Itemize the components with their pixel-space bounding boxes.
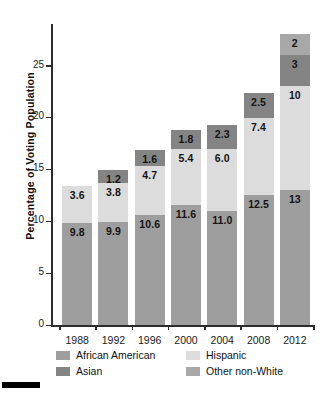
legend-swatch bbox=[56, 367, 70, 376]
legend-label: Asian bbox=[76, 366, 102, 377]
stacked-bar[interactable]: 9.83.6 bbox=[62, 186, 92, 325]
bar-segment[interactable]: 3.6 bbox=[62, 186, 92, 223]
bar-segment-label: 3.8 bbox=[98, 186, 128, 198]
bar-segment-label: 3 bbox=[280, 58, 310, 70]
stacked-bar[interactable]: 11.06.02.3 bbox=[207, 125, 237, 325]
bar-segment[interactable]: 11.0 bbox=[207, 211, 237, 325]
bar-segment[interactable]: 9.9 bbox=[98, 222, 128, 325]
legend-swatch bbox=[186, 367, 200, 376]
bar-segment-label: 2 bbox=[280, 37, 310, 49]
bar-segment-label: 3.6 bbox=[62, 189, 92, 201]
x-axis-line bbox=[51, 325, 313, 327]
bar-segment[interactable]: 6.0 bbox=[207, 149, 237, 211]
bar-segment-label: 10 bbox=[280, 89, 310, 101]
bar-segment[interactable]: 9.8 bbox=[62, 223, 92, 325]
bar-segment[interactable]: 3.8 bbox=[98, 183, 128, 222]
legend-item[interactable]: Hispanic bbox=[186, 350, 246, 361]
legend-label: Hispanic bbox=[206, 350, 246, 361]
bar-segment-label: 7.4 bbox=[244, 121, 274, 133]
y-tick-mark bbox=[46, 117, 51, 119]
bar-segment[interactable]: 10.6 bbox=[135, 215, 165, 325]
stacked-bar[interactable]: 10.64.71.6 bbox=[135, 150, 165, 325]
legend-label: African American bbox=[76, 350, 155, 361]
chart-legend: African AmericanHispanicAsianOther non-W… bbox=[56, 350, 306, 382]
y-axis-line bbox=[51, 24, 53, 327]
bar-segment-label: 10.6 bbox=[135, 218, 165, 230]
x-tick-mark bbox=[204, 325, 206, 330]
y-axis-title: Percentage of Voting Population bbox=[24, 41, 36, 271]
bar-segment-label: 2.3 bbox=[207, 128, 237, 140]
bar-segment-label: 5.4 bbox=[171, 152, 201, 164]
bar-segment[interactable]: 2.3 bbox=[207, 125, 237, 149]
bar-segment[interactable]: 13 bbox=[280, 190, 310, 325]
bar-segment-label: 13 bbox=[280, 193, 310, 205]
bar-segment-label: 1.2 bbox=[98, 173, 128, 185]
legend-item[interactable]: Asian bbox=[56, 366, 102, 377]
chart-figure: Percentage of Voting Population 05101520… bbox=[0, 0, 323, 398]
legend-item[interactable]: Other non-White bbox=[186, 366, 283, 377]
y-tick-mark bbox=[46, 325, 51, 327]
bar-segment-label: 1.8 bbox=[171, 133, 201, 145]
bar-segment-label: 9.8 bbox=[62, 226, 92, 238]
bar-segment[interactable]: 7.4 bbox=[244, 118, 274, 195]
x-tick-mark bbox=[168, 325, 170, 330]
bar-segment-label: 12.5 bbox=[244, 198, 274, 210]
bar-segment[interactable]: 2 bbox=[280, 34, 310, 55]
bar-segment-label: 11.0 bbox=[207, 214, 237, 226]
bar-segment[interactable]: 1.6 bbox=[135, 150, 165, 167]
plot-area: 0510152025 1988199219962000200420082012 … bbox=[51, 24, 313, 327]
stacked-bar[interactable]: 12.57.42.5 bbox=[244, 93, 274, 325]
bar-segment-label: 9.9 bbox=[98, 225, 128, 237]
bar-segment[interactable]: 3 bbox=[280, 55, 310, 86]
x-tick-mark bbox=[313, 325, 315, 330]
bar-segment[interactable]: 5.4 bbox=[171, 149, 201, 205]
y-tick-label: 0 bbox=[38, 318, 44, 329]
bar-segment[interactable]: 1.8 bbox=[171, 130, 201, 149]
legend-label: Other non-White bbox=[206, 366, 283, 377]
x-tick-mark bbox=[95, 325, 97, 330]
bar-segment[interactable]: 2.5 bbox=[244, 93, 274, 119]
bar-segment[interactable]: 4.7 bbox=[135, 166, 165, 215]
y-tick-mark bbox=[46, 169, 51, 171]
legend-swatch bbox=[186, 351, 200, 360]
legend-item[interactable]: African American bbox=[56, 350, 155, 361]
x-tick-mark bbox=[277, 325, 279, 330]
bar-segment-label: 1.6 bbox=[135, 153, 165, 165]
y-tick-label: 25 bbox=[33, 59, 44, 70]
page-rule-artifact bbox=[2, 382, 40, 388]
y-tick-label: 5 bbox=[38, 266, 44, 277]
bar-segment-label: 11.6 bbox=[171, 208, 201, 220]
x-tick-mark bbox=[240, 325, 242, 330]
bar-segment[interactable]: 12.5 bbox=[244, 195, 274, 325]
stacked-bar[interactable]: 131032 bbox=[280, 34, 310, 325]
y-tick-label: 10 bbox=[33, 214, 44, 225]
legend-swatch bbox=[56, 351, 70, 360]
y-tick-label: 15 bbox=[33, 162, 44, 173]
bar-segment-label: 6.0 bbox=[207, 152, 237, 164]
y-tick-mark bbox=[46, 273, 51, 275]
bar-segment-label: 2.5 bbox=[244, 96, 274, 108]
stacked-bar[interactable]: 11.65.41.8 bbox=[171, 130, 201, 325]
bar-segment[interactable]: 10 bbox=[280, 86, 310, 190]
bar-segment-label: 4.7 bbox=[135, 169, 165, 181]
y-tick-mark bbox=[46, 65, 51, 67]
bar-segment[interactable]: 1.2 bbox=[98, 170, 128, 182]
x-tick-mark bbox=[59, 325, 61, 330]
bar-segment[interactable]: 11.6 bbox=[171, 205, 201, 325]
stacked-bar[interactable]: 9.93.81.2 bbox=[98, 170, 128, 325]
y-tick-label: 20 bbox=[33, 110, 44, 121]
x-tick-label: 2012 bbox=[270, 334, 320, 346]
y-tick-mark bbox=[46, 221, 51, 223]
x-tick-mark bbox=[132, 325, 134, 330]
